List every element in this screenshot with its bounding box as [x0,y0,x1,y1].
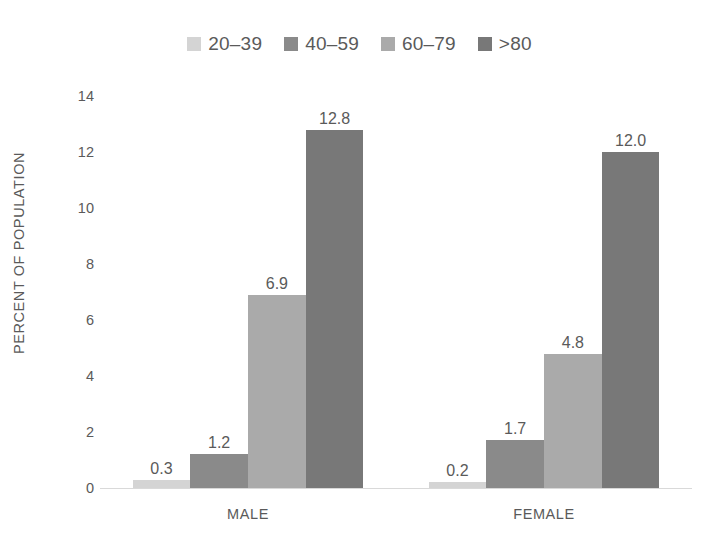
y-tick-2: 2 [86,424,94,440]
bar-value-label: 4.8 [544,335,602,351]
legend-label-over-80: >80 [499,34,532,53]
legend-item-20-39: 20–39 [187,34,262,53]
y-tick-4: 4 [86,368,94,384]
plot-area: 0.3 1.2 6.9 12.8 0. [100,96,692,488]
bar-rect [602,152,660,488]
x-label-female: FEMALE [396,506,692,522]
bar-rect [544,354,602,488]
y-tick-0: 0 [86,480,94,496]
bar-group-male: 0.3 1.2 6.9 12.8 [100,96,396,488]
bar-value-label: 1.2 [190,435,248,451]
bar-male-60-79[interactable]: 6.9 [248,96,306,488]
y-tick-8: 8 [86,256,94,272]
bar-female-over-80[interactable]: 12.0 [602,96,660,488]
legend-swatch-over-80 [478,37,492,51]
legend-item-over-80: >80 [478,34,532,53]
bar-female-20-39[interactable]: 0.2 [429,96,487,488]
bar-value-label: 6.9 [248,276,306,292]
x-axis-line [100,488,692,489]
bar-male-20-39[interactable]: 0.3 [133,96,191,488]
bar-male-over-80[interactable]: 12.8 [306,96,364,488]
y-tick-6: 6 [86,312,94,328]
bar-rect [133,480,191,488]
bar-group-female: 0.2 1.7 4.8 12.0 [396,96,692,488]
legend-label-40-59: 40–59 [305,34,359,53]
bar-chart: 20–39 40–59 60–79 >80 PERCENT OF POPULAT… [0,0,719,555]
legend-swatch-40-59 [284,37,298,51]
bar-value-label: 1.7 [486,421,544,437]
y-axis-title: PERCENT OF POPULATION [6,0,32,555]
bar-rect [190,454,248,488]
bar-rect [306,130,364,488]
bar-value-label: 0.2 [429,463,487,479]
y-axis-ticks: 14 12 10 8 6 4 2 0 [56,96,94,488]
bar-female-40-59[interactable]: 1.7 [486,96,544,488]
bar-value-label: 12.0 [602,133,660,149]
bar-value-label: 12.8 [306,111,364,127]
y-tick-12: 12 [78,144,94,160]
bar-male-40-59[interactable]: 1.2 [190,96,248,488]
legend-swatch-20-39 [187,37,201,51]
y-axis-title-text: PERCENT OF POPULATION [11,151,27,353]
bar-rect [486,440,544,488]
x-label-male: MALE [100,506,396,522]
legend-item-40-59: 40–59 [284,34,359,53]
legend-label-20-39: 20–39 [208,34,262,53]
y-tick-10: 10 [78,200,94,216]
legend-label-60-79: 60–79 [402,34,456,53]
legend-item-60-79: 60–79 [381,34,456,53]
bar-value-label: 0.3 [133,461,191,477]
bar-rect [248,295,306,488]
y-tick-14: 14 [78,88,94,104]
bar-female-60-79[interactable]: 4.8 [544,96,602,488]
chart-legend: 20–39 40–59 60–79 >80 [0,34,719,53]
x-axis-labels: MALE FEMALE [100,506,692,522]
legend-swatch-60-79 [381,37,395,51]
